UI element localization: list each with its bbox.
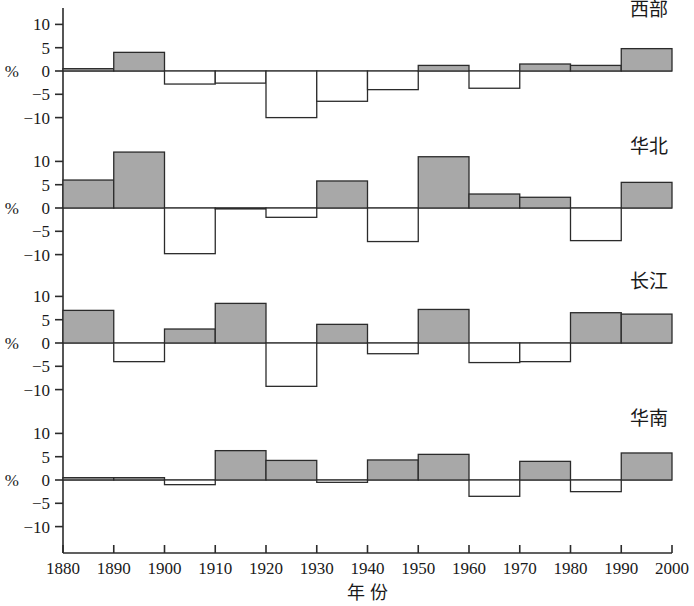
x-tick-label: 1990: [604, 559, 638, 578]
bar: [317, 324, 368, 343]
bar: [368, 208, 419, 242]
y-tick-label: −5: [32, 357, 50, 376]
bar: [418, 157, 469, 208]
bar: [621, 314, 672, 343]
bar: [266, 71, 317, 118]
bar: [317, 480, 368, 482]
y-tick-label: 10: [33, 15, 50, 34]
bar: [621, 182, 672, 208]
x-tick-label: 1890: [97, 559, 131, 578]
bar: [317, 181, 368, 208]
bar: [165, 329, 216, 343]
bar: [621, 49, 672, 71]
bar: [469, 480, 520, 496]
bar: [571, 65, 622, 71]
bar: [215, 451, 266, 480]
x-tick-label: 1910: [198, 559, 232, 578]
bar: [520, 343, 571, 362]
x-tick-label: 1940: [351, 559, 385, 578]
y-tick-label: 10: [33, 152, 50, 171]
bar: [63, 180, 114, 208]
panel-华南: 1050−5−10%华南: [5, 407, 672, 537]
bar: [368, 71, 419, 90]
x-tick-label: 1920: [249, 559, 283, 578]
y-tick-label: 0: [42, 199, 51, 218]
panel-title: 华南: [630, 407, 668, 429]
x-tick-label: 1930: [300, 559, 334, 578]
x-tick-label: 1960: [452, 559, 486, 578]
panel-华北: 1050−5−10%华北: [5, 135, 672, 265]
bar: [418, 454, 469, 480]
bar: [63, 310, 114, 343]
chart-figure: 1050−5−10%西部1050−5−10%华北1050−5−10%长江1050…: [0, 0, 694, 606]
y-tick-label: −10: [23, 109, 50, 128]
panel-title: 华北: [630, 135, 668, 157]
y-tick-label: −5: [32, 85, 50, 104]
bar: [571, 480, 622, 492]
bar: [520, 197, 571, 208]
y-tick-label: −5: [32, 222, 50, 241]
bar: [114, 478, 165, 480]
bar: [215, 303, 266, 343]
x-tick-label: 1950: [401, 559, 435, 578]
multi-panel-bar-chart: 1050−5−10%西部1050−5−10%华北1050−5−10%长江1050…: [0, 0, 694, 606]
panel-title: 长江: [630, 270, 668, 292]
y-axis-label: %: [5, 471, 19, 490]
bar: [266, 208, 317, 217]
bar: [165, 208, 216, 254]
y-axis-label: %: [5, 334, 19, 353]
bar: [571, 208, 622, 241]
y-axis-label: %: [5, 199, 19, 218]
bar: [418, 65, 469, 71]
bar: [114, 152, 165, 208]
bar: [165, 480, 216, 485]
y-tick-label: −10: [23, 246, 50, 265]
y-tick-label: 10: [33, 287, 50, 306]
bar: [621, 453, 672, 480]
bar: [520, 461, 571, 480]
bar: [63, 69, 114, 71]
bar: [418, 309, 469, 343]
y-tick-label: −10: [23, 518, 50, 537]
y-tick-label: 0: [42, 62, 51, 81]
bar: [571, 313, 622, 343]
bar: [266, 343, 317, 386]
bar: [469, 194, 520, 208]
y-tick-label: 5: [42, 39, 51, 58]
bar: [266, 460, 317, 480]
bar: [469, 343, 520, 363]
panel-title: 西部: [630, 0, 668, 20]
bar: [114, 343, 165, 362]
y-tick-label: 10: [33, 424, 50, 443]
y-tick-label: 5: [42, 448, 51, 467]
bar: [114, 52, 165, 71]
bar: [368, 343, 419, 354]
y-tick-label: 0: [42, 471, 51, 490]
bar: [317, 71, 368, 101]
x-tick-label: 1880: [46, 559, 80, 578]
panel-长江: 1050−5−10%长江: [5, 270, 672, 400]
bar: [469, 71, 520, 88]
y-tick-label: 5: [42, 311, 51, 330]
bar: [165, 71, 216, 84]
x-tick-label: 1900: [148, 559, 182, 578]
bar: [368, 460, 419, 480]
y-tick-label: −5: [32, 494, 50, 513]
y-axis-label: %: [5, 62, 19, 81]
x-tick-label: 1970: [503, 559, 537, 578]
y-tick-label: 5: [42, 176, 51, 195]
x-tick-label: 2000: [655, 559, 689, 578]
bar: [215, 208, 266, 209]
bar: [520, 64, 571, 71]
y-tick-label: 0: [42, 334, 51, 353]
bar: [63, 478, 114, 480]
y-tick-label: −10: [23, 381, 50, 400]
panel-西部: 1050−5−10%西部: [5, 0, 672, 128]
x-tick-label: 1980: [554, 559, 588, 578]
bar: [215, 71, 266, 83]
x-axis-title: 年 份: [347, 582, 389, 603]
